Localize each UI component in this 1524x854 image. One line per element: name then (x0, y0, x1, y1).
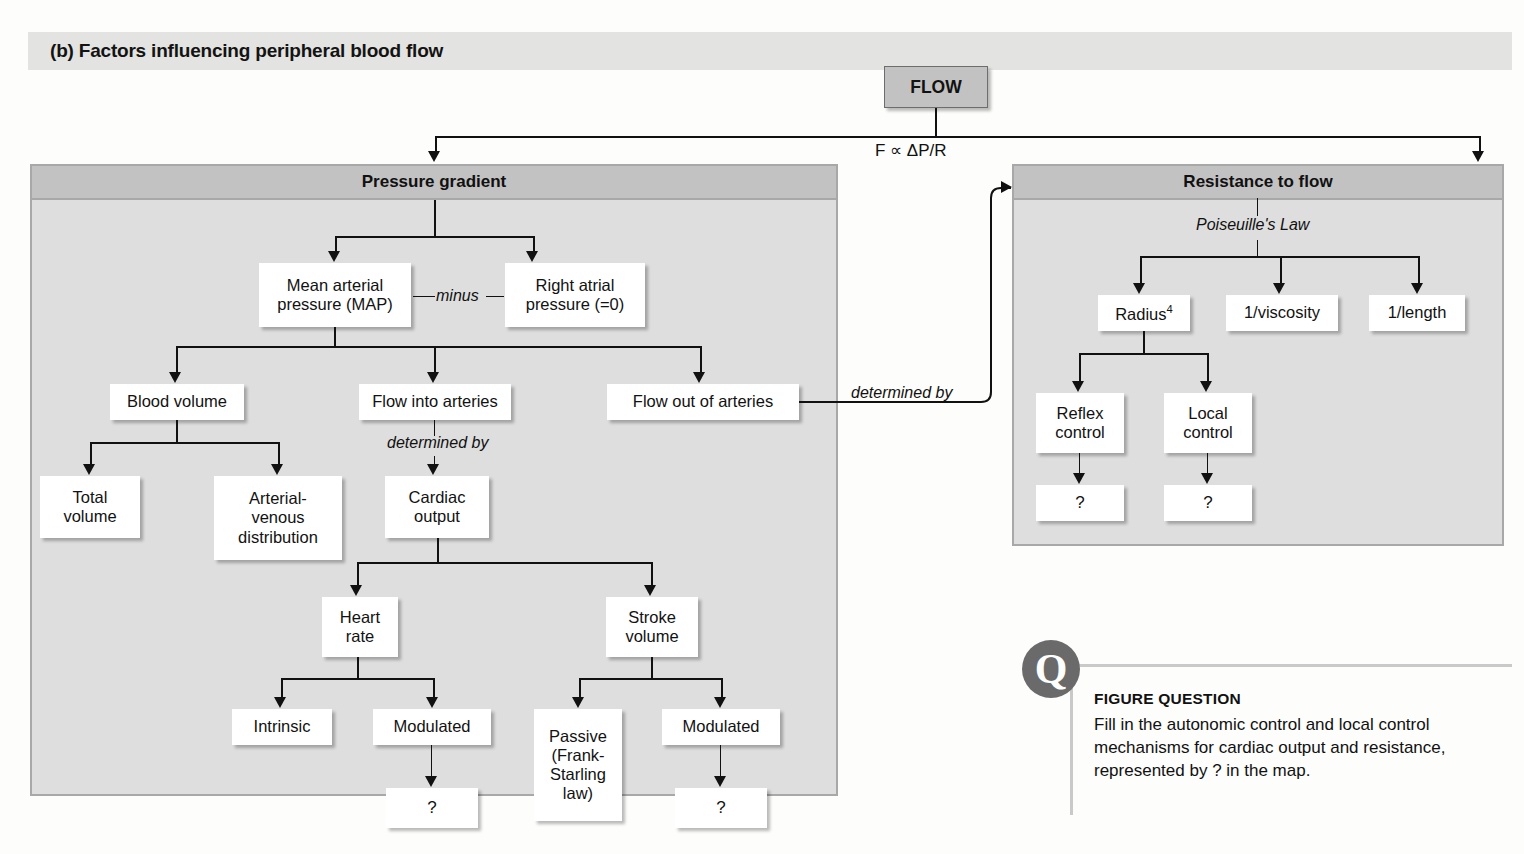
connector-cardiac-fanout (357, 562, 653, 564)
connector-to-av-distribution (278, 442, 280, 465)
connector-to-flow-out (700, 346, 702, 373)
connector-map-stem (334, 327, 336, 346)
node-flow-out-of-arteries: Flow out of arteries (607, 384, 799, 420)
arrowhead-determined-by-resistance (1001, 181, 1012, 193)
connector-modulated-hr-stem (431, 745, 432, 777)
arrowhead-radius (1133, 283, 1145, 294)
arrowhead-viscosity (1273, 283, 1285, 294)
connector-local-stem (1207, 453, 1208, 474)
arrowhead-flow-out (693, 372, 705, 383)
node-label: 1/viscosity (1244, 303, 1320, 322)
connector-to-viscosity (1280, 256, 1282, 284)
connector-heart-rate-fanout (281, 678, 433, 680)
connector-to-reflex-control (1079, 353, 1081, 382)
node-inverse-length: 1/length (1369, 295, 1465, 331)
connector-to-length (1418, 256, 1420, 284)
connector-flow-stem (935, 108, 937, 136)
connector-to-total-volume (90, 442, 92, 465)
arrowhead-stroke-volume (644, 585, 656, 596)
node-label: Total volume (63, 488, 116, 526)
node-local-control: Local control (1164, 393, 1252, 453)
node-arterial-venous-distribution: Arterial- venous distribution (214, 476, 342, 560)
node-label: Flow into arteries (372, 392, 498, 411)
panel-pressure-header: Pressure gradient (32, 166, 836, 200)
connector-blood-volume-stem (176, 420, 178, 442)
node-label: Radius4 (1115, 303, 1173, 324)
arrowhead-length (1411, 283, 1423, 294)
connector-resistance-stem-a (1257, 198, 1258, 216)
node-label: Passive (Frank- Starling law) (549, 727, 607, 804)
node-question-reflex: ? (1036, 485, 1124, 521)
arrowhead-heart-rate (350, 585, 362, 596)
arrowhead-modulated-hr (426, 697, 438, 708)
node-mean-arterial-pressure: Mean arterial pressure (MAP) (259, 263, 411, 327)
node-label: Mean arterial pressure (MAP) (277, 276, 393, 314)
node-total-volume: Total volume (40, 476, 140, 538)
connector-to-pressure (435, 136, 437, 152)
arrowhead-reflex-control (1072, 381, 1084, 392)
label-determined-by-cardiac: determined by (387, 434, 488, 452)
connector-map-left (335, 236, 337, 252)
radius-exponent: 4 (1167, 303, 1173, 315)
node-label: ? (427, 798, 436, 818)
figure-question-block: Q FIGURE QUESTION Fill in the autonomic … (1012, 640, 1512, 815)
connector-to-local-control (1207, 353, 1209, 382)
connector-minus-left (413, 296, 435, 297)
arrowhead-rap (526, 251, 538, 262)
arrowhead-map (328, 251, 340, 262)
label-poiseuilles-law: Poiseuille's Law (1196, 216, 1309, 234)
connector-to-flow-into (434, 346, 436, 373)
arrowhead-total-volume (83, 464, 95, 475)
connector-to-radius (1140, 256, 1142, 284)
node-label: Intrinsic (254, 717, 311, 736)
node-label: Stroke volume (625, 608, 678, 646)
arrowhead-question-sv (714, 776, 726, 787)
arrowhead-question-reflex (1073, 473, 1085, 484)
node-label: ? (716, 798, 725, 818)
label-minus: minus (436, 287, 479, 305)
figure-question-title: FIGURE QUESTION (1094, 690, 1241, 708)
connector-flow-split (435, 136, 1479, 138)
figure-question-body: Fill in the autonomic control and local … (1094, 714, 1494, 782)
arrowhead-cardiac-output (427, 464, 439, 475)
connector-cardiac-stem (437, 538, 439, 562)
node-label: Flow out of arteries (633, 392, 773, 411)
connector-reflex-stem (1079, 453, 1080, 474)
connector-determined-by-resistance (795, 176, 1025, 416)
panel-resistance-title: Resistance to flow (1183, 172, 1332, 192)
node-reflex-control: Reflex control (1036, 393, 1124, 453)
node-inverse-viscosity: 1/viscosity (1226, 295, 1338, 331)
node-radius: Radius4 (1098, 295, 1190, 331)
connector-pressure-stem (434, 200, 436, 236)
node-label: ? (1203, 493, 1212, 513)
connector-to-blood-volume (176, 346, 178, 373)
panel-resistance-header: Resistance to flow (1014, 166, 1502, 200)
node-label: 1/length (1388, 303, 1447, 322)
page-title: (b) Factors influencing peripheral blood… (50, 40, 443, 62)
node-modulated-stroke-volume: Modulated (662, 709, 780, 745)
connector-to-intrinsic (281, 678, 283, 698)
node-right-atrial-pressure: Right atrial pressure (=0) (505, 263, 645, 327)
arrowhead-blood-volume (169, 372, 181, 383)
node-label: Cardiac output (409, 488, 466, 526)
arrowhead-passive (572, 697, 584, 708)
connector-modulated-sv-stem (720, 745, 721, 777)
node-label: Modulated (682, 717, 759, 736)
node-label: Heart rate (340, 608, 380, 646)
arrowhead-to-pressure (428, 151, 440, 162)
node-passive-frank-starling: Passive (Frank- Starling law) (534, 709, 622, 821)
arrowhead-local-control (1200, 381, 1212, 392)
node-modulated-heart-rate: Modulated (373, 709, 491, 745)
node-cardiac-output: Cardiac output (385, 476, 489, 538)
connector-to-modulated-hr (433, 678, 435, 698)
connector-stroke-volume-fanout (579, 678, 723, 680)
arrowhead-question-hr (425, 776, 437, 787)
label-determined-by-resistance: determined by (851, 384, 952, 402)
figure-canvas: (b) Factors influencing peripheral blood… (0, 0, 1524, 854)
node-label: Modulated (393, 717, 470, 736)
node-label: Right atrial pressure (=0) (526, 276, 625, 314)
arrowhead-question-local (1201, 473, 1213, 484)
connector-map-split (335, 236, 535, 238)
connector-stroke-volume-stem (651, 657, 653, 678)
connector-minus-right (486, 296, 504, 297)
